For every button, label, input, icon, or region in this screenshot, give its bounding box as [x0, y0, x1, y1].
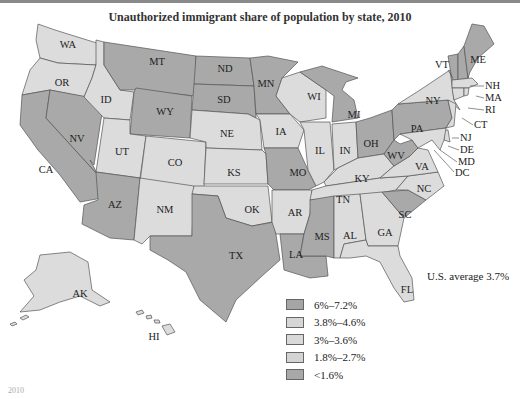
- label-mn: MN: [258, 78, 275, 89]
- label-ky: KY: [354, 173, 370, 184]
- footnote: 2010: [8, 386, 24, 395]
- alaska-islands: [10, 315, 29, 326]
- label-ms: MS: [314, 231, 329, 242]
- label-wy: WY: [156, 106, 174, 117]
- label-nh: NH: [485, 80, 501, 91]
- legend-label: 3.8%–4.6%: [314, 316, 365, 328]
- label-id: ID: [100, 94, 111, 105]
- state-ct[interactable]: [452, 88, 464, 100]
- us-average-label: U.S. average 3.7%: [427, 270, 509, 282]
- state-ak[interactable]: [20, 252, 110, 312]
- label-ri: RI: [485, 104, 496, 115]
- us-map: WA OR CA NV ID MT WY UT CO AZ NM ND SD N…: [0, 0, 520, 399]
- state-ma[interactable]: [452, 78, 478, 88]
- legend: 6%–7.2% 3.8%–4.6% 3%–3.6% 1.8%–2.7% <1.6…: [286, 296, 365, 384]
- legend-label: 3%–3.6%: [314, 334, 357, 346]
- label-va: VA: [415, 161, 429, 172]
- label-md: MD: [458, 156, 475, 167]
- label-co: CO: [168, 157, 183, 168]
- label-nv: NV: [69, 133, 85, 144]
- label-wa: WA: [60, 39, 77, 50]
- legend-swatch: [286, 317, 304, 328]
- label-de: DE: [460, 144, 474, 155]
- label-me: ME: [470, 54, 486, 65]
- legend-item: 3.8%–4.6%: [286, 314, 365, 332]
- legend-swatch: [286, 352, 304, 363]
- legend-label: <1.6%: [314, 369, 343, 381]
- label-ut: UT: [115, 146, 130, 157]
- label-mi: MI: [348, 109, 361, 120]
- legend-item: <1.6%: [286, 366, 365, 384]
- label-ne: NE: [220, 128, 234, 139]
- state-ri[interactable]: [464, 88, 469, 96]
- label-dc: DC: [455, 167, 470, 178]
- label-mt: MT: [149, 56, 165, 67]
- legend-swatch: [286, 299, 304, 310]
- label-ca: CA: [39, 164, 54, 175]
- label-wi: WI: [307, 91, 321, 102]
- legend-swatch: [286, 369, 304, 380]
- label-nj: NJ: [460, 132, 472, 143]
- label-oh: OH: [363, 138, 379, 149]
- label-ny: NY: [425, 95, 441, 106]
- label-az: AZ: [108, 199, 122, 210]
- label-hi: HI: [148, 331, 160, 342]
- label-tn: TN: [336, 194, 350, 205]
- legend-label: 1.8%–2.7%: [314, 351, 365, 363]
- legend-item: 6%–7.2%: [286, 296, 365, 314]
- legend-swatch: [286, 334, 304, 345]
- state-me[interactable]: [464, 24, 494, 78]
- label-ga: GA: [377, 227, 393, 238]
- label-ct: CT: [474, 119, 488, 130]
- label-nm: NM: [157, 204, 175, 215]
- label-vt: VT: [435, 59, 450, 70]
- label-sc: SC: [399, 209, 412, 220]
- label-al: AL: [343, 230, 357, 241]
- label-pa: PA: [411, 123, 424, 134]
- label-mo: MO: [290, 167, 307, 178]
- label-or: OR: [55, 77, 70, 88]
- label-ma: MA: [485, 92, 502, 103]
- label-tx: TX: [229, 250, 243, 261]
- legend-item: 3%–3.6%: [286, 331, 365, 349]
- legend-item: 1.8%–2.7%: [286, 349, 365, 367]
- label-sd: SD: [217, 94, 231, 105]
- label-il: IL: [315, 145, 325, 156]
- label-nd: ND: [217, 63, 233, 74]
- legend-label: 6%–7.2%: [314, 299, 357, 311]
- label-ok: OK: [244, 204, 260, 215]
- label-ia: IA: [275, 126, 286, 137]
- label-wv: WV: [387, 150, 405, 161]
- label-fl: FL: [401, 284, 413, 295]
- label-in: IN: [339, 145, 350, 156]
- label-nc: NC: [417, 183, 432, 194]
- state-ks[interactable]: [204, 148, 268, 184]
- label-la: LA: [289, 249, 303, 260]
- label-ak: AK: [72, 288, 88, 299]
- label-ar: AR: [288, 207, 303, 218]
- label-ks: KS: [227, 167, 241, 178]
